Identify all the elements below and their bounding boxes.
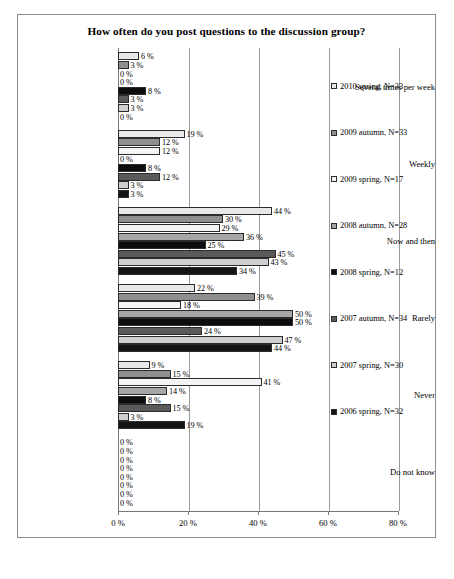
bar[interactable]	[118, 284, 195, 292]
bar[interactable]	[118, 233, 244, 241]
bar[interactable]	[118, 147, 160, 155]
bar-row: 0 %	[118, 464, 398, 472]
bar[interactable]	[118, 361, 150, 369]
bar[interactable]	[118, 130, 185, 138]
bar[interactable]	[118, 95, 129, 103]
bar-value-label: 8 %	[148, 86, 161, 95]
bar[interactable]	[118, 378, 262, 386]
bar[interactable]	[118, 293, 255, 301]
x-tick-mark	[328, 511, 329, 515]
bar[interactable]	[118, 318, 293, 326]
bar-row: 0 %	[118, 78, 398, 86]
bar[interactable]	[118, 87, 146, 95]
bar-row: 3 %	[118, 413, 398, 421]
bar[interactable]	[118, 344, 272, 352]
bar-value-label: 12 %	[162, 172, 179, 181]
bar[interactable]	[118, 327, 202, 335]
bar[interactable]	[118, 207, 272, 215]
bar-row: 8 %	[118, 87, 398, 95]
bar-value-label: 34 %	[239, 267, 256, 276]
x-tick-mark	[398, 511, 399, 515]
bar[interactable]	[118, 215, 223, 223]
bar-row: 8 %	[118, 164, 398, 172]
bar-row: 34 %	[118, 267, 398, 275]
bar[interactable]	[118, 396, 146, 404]
bar[interactable]	[118, 52, 139, 60]
bar-value-label: 22 %	[197, 283, 214, 292]
bar-value-label: 36 %	[246, 232, 263, 241]
bar[interactable]	[118, 190, 129, 198]
bar-value-label: 3 %	[131, 189, 144, 198]
bar-row: 36 %	[118, 233, 398, 241]
bar-row: 39 %	[118, 293, 398, 301]
bar[interactable]	[118, 421, 185, 429]
bar-row: 0 %	[118, 438, 398, 446]
bar-row: 0 %	[118, 113, 398, 121]
bar-value-label: 0 %	[120, 112, 133, 121]
bar-value-label: 15 %	[173, 404, 190, 413]
bar-row: 15 %	[118, 404, 398, 412]
bar-row: 44 %	[118, 207, 398, 215]
bar-value-label: 19 %	[187, 421, 204, 430]
bar-row: 15 %	[118, 370, 398, 378]
bar-row: 9 %	[118, 361, 398, 369]
bar-row: 24 %	[118, 327, 398, 335]
bar[interactable]	[118, 370, 171, 378]
bar-value-label: 0 %	[120, 498, 133, 507]
bar-row: 3 %	[118, 104, 398, 112]
bar-row: 3 %	[118, 95, 398, 103]
bar-value-label: 0 %	[120, 155, 133, 164]
bar-value-label: 12 %	[162, 146, 179, 155]
bar-row: 30 %	[118, 215, 398, 223]
bar[interactable]	[118, 301, 181, 309]
x-tick-mark	[258, 511, 259, 515]
bar-value-label: 29 %	[222, 224, 239, 233]
bar-row: 0 %	[118, 456, 398, 464]
x-tick-mark	[188, 511, 189, 515]
bar[interactable]	[118, 387, 167, 395]
bar-value-label: 19 %	[187, 129, 204, 138]
bar[interactable]	[118, 250, 276, 258]
bar[interactable]	[118, 336, 283, 344]
bar[interactable]	[118, 173, 160, 181]
bar-row: 47 %	[118, 336, 398, 344]
bar-row: 12 %	[118, 173, 398, 181]
bar-row: 3 %	[118, 190, 398, 198]
bar-row: 25 %	[118, 241, 398, 249]
bar-row: 19 %	[118, 130, 398, 138]
bar[interactable]	[118, 404, 171, 412]
bar-row: 0 %	[118, 499, 398, 507]
bar-row: 0 %	[118, 70, 398, 78]
bar-row: 0 %	[118, 447, 398, 455]
bar[interactable]	[118, 61, 129, 69]
bar-value-label: 41 %	[264, 378, 281, 387]
bar[interactable]	[118, 164, 146, 172]
bar[interactable]	[118, 181, 129, 189]
bar-row: 22 %	[118, 284, 398, 292]
bar-value-label: 9 %	[152, 361, 165, 370]
bar-row: 6 %	[118, 52, 398, 60]
x-tick-label: 20 %	[179, 518, 197, 528]
bar[interactable]	[118, 258, 269, 266]
bar-value-label: 50 %	[295, 318, 312, 327]
bar-value-label: 39 %	[257, 292, 274, 301]
bar-row: 50 %	[118, 310, 398, 318]
bar[interactable]	[118, 413, 129, 421]
bar[interactable]	[118, 224, 220, 232]
bar[interactable]	[118, 310, 293, 318]
bar[interactable]	[118, 267, 237, 275]
bar-value-label: 8 %	[148, 395, 161, 404]
bar-row: 50 %	[118, 318, 398, 326]
bar-row: 0 %	[118, 481, 398, 489]
bar[interactable]	[118, 241, 206, 249]
bar-row: 44 %	[118, 344, 398, 352]
bar-value-label: 24 %	[204, 326, 221, 335]
bar-value-label: 18 %	[183, 301, 200, 310]
x-tick-label: 80 %	[389, 518, 407, 528]
bar-row: 0 %	[118, 490, 398, 498]
x-tick-label: 40 %	[249, 518, 267, 528]
bar-value-label: 44 %	[274, 206, 291, 215]
bar[interactable]	[118, 138, 160, 146]
bar-value-label: 15 %	[173, 369, 190, 378]
bar[interactable]	[118, 104, 129, 112]
